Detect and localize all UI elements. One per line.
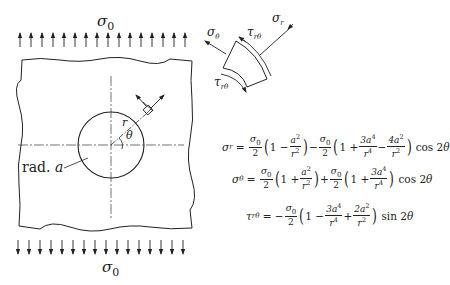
hole-radius-leader: [64, 158, 88, 168]
angle-theta-label: θ: [126, 130, 133, 141]
small-element-sigma-theta-arrow: [136, 95, 146, 106]
small-element-shear-mark: [143, 102, 153, 111]
angle-arc: [119, 138, 122, 149]
bottom-load-arrows: [18, 240, 183, 254]
equation-sigma-theta: σθ = σ02 (1 + a2r2 )+ σ02 (1 + 3a4r4 )co…: [232, 166, 432, 191]
equation-sigma-r: σr = σ02 (1 − a2r2 )− σ02 (1 + 3a4r4 − 4…: [222, 134, 450, 159]
bottom-load-label: σ0: [102, 260, 119, 278]
hole-radius-label: rad. a: [22, 160, 63, 174]
tau-r-theta-top-label: τrθ: [247, 26, 261, 41]
tau-r-theta-bottom-label: τrθ: [214, 76, 228, 91]
small-element-sigma-r-arrow: [151, 95, 164, 108]
sigma-r-label: σr: [272, 12, 284, 27]
top-load-label: σ0: [97, 14, 114, 32]
equation-tau-r-theta: τrθ = − σ02 (1 − 3a4r4 + 2a2r2 )sin 2θ: [246, 203, 413, 228]
plate-outline: [16, 57, 194, 231]
radius-r-label: r: [122, 117, 127, 128]
top-load-arrows: [20, 33, 185, 47]
sigma-theta-label: σθ: [207, 26, 219, 41]
